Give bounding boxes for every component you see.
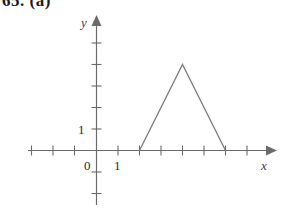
figure-container: 65. (a) y x	[0, 0, 283, 209]
origin-tick-label: 0	[84, 158, 91, 173]
x-axis-arrowhead	[266, 146, 277, 156]
y-axis-arrowhead	[92, 15, 102, 26]
x-axis-label: x	[260, 158, 267, 173]
triangular-pulse-curve	[140, 65, 226, 151]
y-axis-label: y	[79, 15, 87, 30]
coordinate-plot: y x 0 1 1	[0, 0, 283, 209]
x-tick-label-1: 1	[114, 158, 121, 173]
y-tick-label-1: 1	[78, 122, 85, 137]
